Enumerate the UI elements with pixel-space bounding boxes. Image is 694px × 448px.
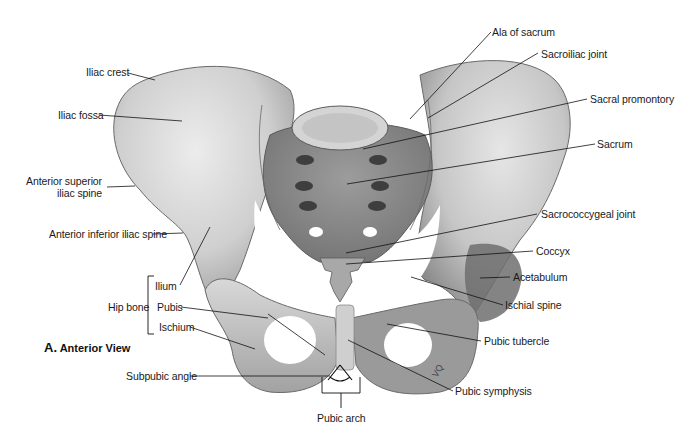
label-pubis: Pubis <box>157 301 183 313</box>
label-subpubic-angle: Subpubic angle <box>126 370 197 382</box>
label-sacroiliac-joint: Sacroiliac joint <box>541 48 607 60</box>
label-coccyx: Coccyx <box>536 245 570 257</box>
caption-text: Anterior View <box>60 342 131 354</box>
label-hip-bone: Hip bone <box>108 301 149 313</box>
label-pubic-tubercle: Pubic tubercle <box>484 335 549 347</box>
caption-letter: A. <box>44 340 57 355</box>
pubic-symphysis-shape <box>336 305 354 370</box>
label-sacrum: Sacrum <box>597 138 633 150</box>
label-acetabulum: Acetabulum <box>513 271 567 283</box>
label-iliac-crest: Iliac crest <box>86 66 129 78</box>
label-ischium: Ischium <box>159 321 194 333</box>
label-ilium: Ilium <box>155 280 177 292</box>
left-obturator-foramen <box>264 316 316 364</box>
figure-caption: A. Anterior View <box>44 340 130 355</box>
label-asis-line1: Anterior superior <box>26 175 102 187</box>
label-asis-line2: iliac spine <box>26 187 102 199</box>
label-aiis: Anterior inferior iliac spine <box>49 228 167 240</box>
label-pubic-symphysis: Pubic symphysis <box>455 385 532 397</box>
label-pubic-arch: Pubic arch <box>317 412 366 424</box>
pubic-arch-bracket <box>322 377 360 408</box>
label-sacrococcygeal-joint: Sacrococcygeal joint <box>541 208 635 220</box>
label-sacral-promontory: Sacral promontory <box>590 93 674 105</box>
pelvis-diagram: VQ Iliac crest Iliac fossa Anterior supe… <box>0 0 694 448</box>
label-ischial-spine: Ischial spine <box>505 299 561 311</box>
right-obturator-foramen <box>384 323 432 367</box>
label-iliac-fossa: Iliac fossa <box>58 109 104 121</box>
label-ala-of-sacrum: Ala of sacrum <box>492 26 555 38</box>
